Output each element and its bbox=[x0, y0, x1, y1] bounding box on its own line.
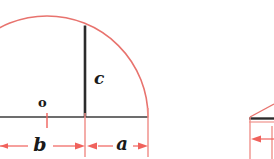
label-segment-b: b bbox=[33, 133, 46, 155]
label-center-o: o bbox=[38, 95, 47, 110]
label-segment-a: a bbox=[116, 133, 128, 154]
label-height-c: c bbox=[94, 68, 105, 88]
geometry-diagram: o c b a bbox=[0, 0, 274, 159]
